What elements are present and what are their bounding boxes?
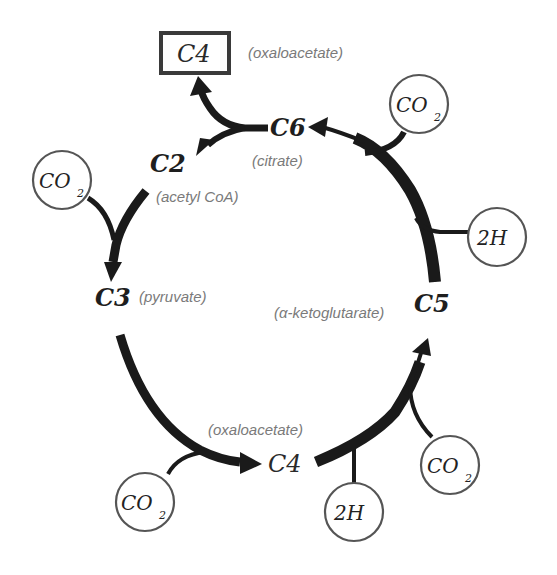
co2-bottom-left-text: CO (121, 491, 153, 515)
node-c5-name: (α-ketoglutarate) (274, 304, 384, 321)
2h-right-text: 2H (476, 226, 508, 250)
2h-bottom-text: 2H (333, 501, 365, 525)
node-c2-name: (acetyl CoA) (156, 188, 239, 205)
co2-left-text: CO (39, 169, 71, 193)
reverse-krebs-cycle-diagram: C4 (oxaloacetate) C6 (citrate) C2 (acety… (0, 0, 557, 575)
co2-top-right-text: CO (396, 93, 428, 117)
co2-left-subscript: 2 (76, 187, 84, 200)
co2-bottom-left-subscript: 2 (158, 509, 166, 522)
node-c3-label: C3 (95, 283, 131, 312)
co2-top-right-subscript: 2 (433, 111, 441, 124)
box-compound-name: (oxaloacetate) (248, 44, 343, 61)
node-c4-name: (oxaloacetate) (208, 421, 303, 438)
box-carbon-label: C4 (177, 40, 211, 68)
node-c6-label: C6 (270, 113, 306, 142)
arrow-c2-to-c3 (104, 191, 146, 282)
2h-input-bottom: 2H (325, 448, 383, 541)
co2-input-bottom-right: CO 2 (410, 385, 479, 494)
arrow-c4-to-c5 (316, 338, 431, 462)
co2-input-top-right: CO 2 (365, 75, 448, 153)
citrate-split-arrow (190, 76, 268, 156)
co2-input-left: CO 2 (33, 151, 114, 240)
oxaloacetate-output-box: C4 (161, 33, 229, 73)
co2-input-bottom-left: CO 2 (116, 452, 205, 531)
node-c4-label: C4 (268, 450, 302, 478)
node-c5-label: C5 (414, 289, 450, 318)
node-c2-label: C2 (150, 149, 186, 178)
node-c6-name: (citrate) (252, 152, 303, 169)
co2-bottom-right-subscript: 2 (464, 472, 472, 485)
arrow-c5-to-c6 (308, 117, 435, 282)
node-c3-name: (pyruvate) (139, 288, 207, 305)
co2-bottom-right-text: CO (427, 454, 459, 478)
